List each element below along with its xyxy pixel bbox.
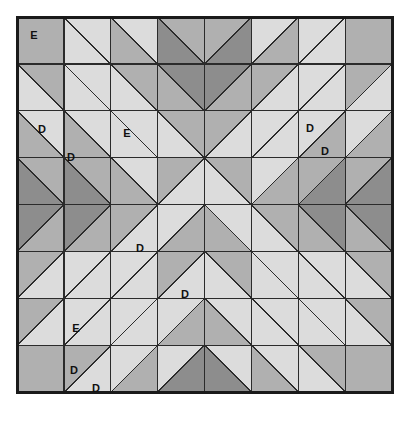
fabric-label-d-9: D — [70, 364, 78, 376]
quilt-patch-r7-c0 — [17, 345, 64, 392]
gridline-layer — [17, 17, 392, 392]
fabric-label-d-10: D — [92, 382, 100, 394]
quilt-block-diagram: EDDEDDDDEDD — [0, 0, 406, 434]
fabric-label-d-4: D — [306, 122, 314, 134]
fabric-label-d-2: D — [67, 151, 75, 163]
fabric-label-e-0: E — [30, 29, 37, 41]
fabric-label-e-3: E — [123, 127, 130, 139]
quilt-canvas: EDDEDDDDEDD — [0, 0, 406, 434]
fabric-label-d-1: D — [38, 123, 46, 135]
fabric-label-e-8: E — [72, 322, 79, 334]
quilt-patch-r0-c7 — [345, 17, 392, 64]
quilt-patch-r7-c7 — [345, 345, 392, 392]
fabric-label-d-6: D — [136, 242, 144, 254]
fabric-label-d-7: D — [181, 288, 189, 300]
fabric-label-d-5: D — [321, 145, 329, 157]
quilt-patch-r0-c0 — [17, 17, 64, 64]
